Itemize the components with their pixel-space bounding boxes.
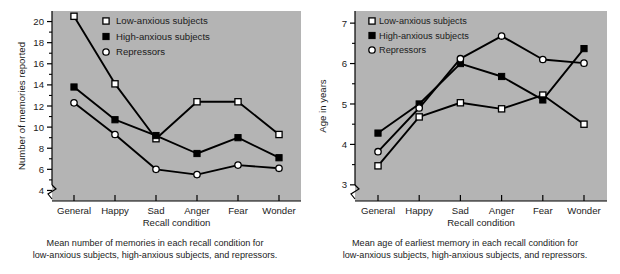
x-axis-tick-label: Happy	[405, 205, 433, 216]
legend-label: Low-anxious subjects	[379, 16, 467, 26]
legend-label: High-anxious subjects	[379, 31, 469, 41]
open-square-marker	[375, 163, 381, 169]
open-circle-marker	[194, 171, 200, 177]
filled-square-marker	[112, 117, 118, 123]
x-axis-title: Recall condition	[143, 217, 211, 228]
x-axis-tick-label: Sad	[452, 205, 469, 216]
y-axis-tick-label: 6	[39, 164, 44, 175]
open-circle-marker	[276, 165, 282, 171]
filled-square-marker	[235, 135, 241, 141]
caption-line-2: low-anxious subjects, high-anxious subje…	[0, 250, 310, 262]
filled-square-marker	[499, 73, 505, 79]
open-square-marker	[416, 114, 422, 120]
open-circle-marker	[375, 148, 381, 154]
filled-square-marker	[276, 155, 282, 161]
open-circle-marker	[71, 100, 77, 106]
y-axis-tick-label: 20	[33, 16, 44, 27]
open-square-marker	[103, 18, 109, 24]
filled-square-marker	[581, 45, 587, 51]
age-figure-caption: Mean age of earliest memory in each reca…	[310, 238, 620, 261]
open-circle-marker	[581, 60, 587, 66]
open-circle-marker	[369, 47, 375, 53]
y-axis-tick-label: 18	[33, 37, 44, 48]
open-square-marker	[457, 100, 463, 106]
svg-text:Age in years: Age in years	[317, 79, 328, 133]
y-axis-tick-label: 10	[33, 122, 44, 133]
caption-line-1: Mean number of memories in each recall c…	[0, 238, 310, 250]
age-figure: 34567GeneralHappySadAngerFearWonderRecal…	[310, 0, 620, 274]
y-axis-tick-label: 7	[342, 18, 347, 29]
open-square-marker	[276, 131, 282, 137]
open-circle-marker	[498, 33, 504, 39]
memories-figure: 468101214161820GeneralHappySadAngerFearW…	[0, 0, 310, 274]
open-circle-marker	[103, 49, 109, 55]
open-square-marker	[112, 81, 118, 87]
x-axis-tick-label: Wonder	[262, 205, 296, 216]
y-axis-title: Number of memories reported	[16, 42, 27, 170]
legend-label: High-anxious subjects	[116, 31, 210, 42]
legend-label: Repressors	[379, 45, 426, 55]
x-axis-tick-label: Wonder	[567, 205, 601, 216]
x-axis-tick-label: Anger	[489, 205, 515, 216]
legend-item: Low-anxious subjects	[103, 15, 208, 26]
open-square-marker	[581, 121, 587, 127]
x-axis-tick-label: Sad	[147, 205, 164, 216]
open-square-marker	[71, 13, 77, 19]
filled-square-marker	[103, 33, 109, 39]
x-axis-tick-label: Fear	[533, 205, 554, 216]
svg-text:Number of memories reported: Number of memories reported	[16, 42, 27, 170]
legend-label: Repressors	[116, 46, 165, 57]
x-axis-tick-label: Fear	[228, 205, 249, 216]
y-axis-tick-label: 3	[342, 179, 347, 190]
open-square-marker	[499, 106, 505, 112]
legend-label: Low-anxious subjects	[116, 15, 208, 26]
y-axis-tick-label: 12	[33, 101, 44, 112]
x-axis-tick-label: Anger	[184, 205, 210, 216]
filled-square-marker	[540, 97, 546, 103]
open-square-marker	[235, 99, 241, 105]
y-axis-tick-label: 16	[33, 58, 44, 69]
filled-square-marker	[369, 32, 375, 38]
y-axis-tick-label: 4	[342, 139, 348, 150]
x-axis-tick-label: Happy	[101, 205, 129, 216]
legend-item: Low-anxious subjects	[369, 16, 467, 26]
open-circle-marker	[112, 131, 118, 137]
x-axis-tick-label: General	[57, 205, 91, 216]
y-axis-tick-label: 14	[33, 79, 44, 90]
filled-square-marker	[153, 132, 159, 138]
open-circle-marker	[457, 56, 463, 62]
memories-figure-caption: Mean number of memories in each recall c…	[0, 238, 310, 261]
age-chart-plot: 34567GeneralHappySadAngerFearWonderRecal…	[310, 0, 620, 238]
open-circle-marker	[235, 162, 241, 168]
y-axis-tick-label: 4	[39, 185, 45, 196]
legend-item: High-anxious subjects	[103, 31, 210, 42]
y-axis-tick-label: 6	[342, 58, 347, 69]
filled-square-marker	[375, 130, 381, 136]
y-axis-tick-label: 8	[39, 143, 44, 154]
x-axis-title: Recall condition	[447, 217, 515, 228]
caption-line-1: Mean age of earliest memory in each reca…	[310, 238, 620, 250]
y-axis-tick-label: 5	[342, 99, 347, 110]
open-square-marker	[369, 18, 375, 24]
open-circle-marker	[153, 166, 159, 172]
filled-square-marker	[71, 84, 77, 90]
filled-square-marker	[194, 150, 200, 156]
legend-item: High-anxious subjects	[369, 31, 469, 41]
open-circle-marker	[416, 105, 422, 111]
y-axis-title: Age in years	[317, 79, 328, 133]
caption-line-2: low-anxious subjects, high-anxious subje…	[310, 250, 620, 262]
open-circle-marker	[540, 56, 546, 62]
memories-chart-plot: 468101214161820GeneralHappySadAngerFearW…	[0, 0, 310, 238]
x-axis-tick-label: General	[361, 205, 395, 216]
open-square-marker	[194, 99, 200, 105]
